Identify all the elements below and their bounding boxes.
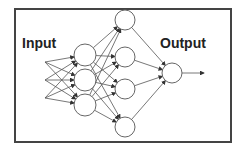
connection-edge: [96, 56, 115, 57]
connection-edge: [45, 98, 74, 103]
connection-edge: [134, 60, 162, 70]
connection-edge: [95, 110, 117, 122]
connection-edge: [95, 93, 116, 101]
input-label: Input: [22, 35, 57, 51]
neuron-hidden-2: [115, 79, 135, 99]
neurons: [74, 10, 182, 137]
connection-edge: [132, 81, 166, 120]
neuron-hidden-2: [115, 117, 135, 137]
neuron-hidden-2: [115, 47, 135, 67]
connection-edge: [91, 28, 119, 71]
connection-edge: [45, 62, 78, 97]
connection-edge: [134, 76, 162, 86]
neuron-output: [162, 63, 182, 83]
connection-edge: [45, 57, 74, 62]
neuron-hidden-2: [115, 10, 135, 30]
neuron-hidden-1: [74, 44, 96, 66]
neuron-hidden-1: [74, 94, 96, 116]
neuron-hidden-1: [74, 69, 96, 91]
output-label: Output: [160, 35, 206, 51]
neural-network-diagram: Input Output: [0, 0, 242, 149]
connection-edge: [96, 82, 116, 86]
connection-edge: [45, 63, 78, 98]
